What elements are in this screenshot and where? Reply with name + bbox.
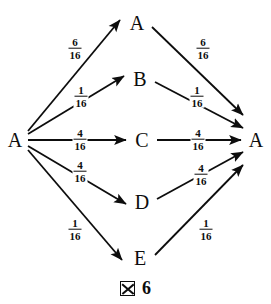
- fraction-numerator: 1: [202, 218, 210, 228]
- fraction-denominator: 16: [69, 49, 82, 59]
- fraction-denominator: 16: [191, 97, 204, 107]
- edge-label-d-to-sink: 4 16: [194, 163, 209, 186]
- fraction-numerator: 6: [71, 37, 79, 47]
- edge-label-a-to-sink: 6 16: [196, 37, 211, 60]
- fraction-denominator: 16: [197, 49, 210, 59]
- node-c-label: C: [135, 129, 148, 151]
- node-sink-a-label: A: [249, 129, 263, 151]
- edge-label-source-to-b: 1 16: [74, 85, 89, 108]
- node-b: B: [133, 69, 146, 89]
- edge-label-source-to-c: 4 16: [73, 128, 88, 151]
- figure-symbol-glyph: [120, 281, 135, 296]
- node-b-label: B: [133, 68, 146, 90]
- edge-label-source-to-e: 1 16: [68, 218, 83, 241]
- fraction-denominator: 16: [74, 140, 87, 150]
- node-source-a: A: [8, 130, 22, 150]
- figure-container: A A B C D E A 6 16 1 16 4 16 4 16 1 16: [0, 0, 271, 304]
- node-a-label: A: [130, 12, 144, 34]
- fraction-numerator: 4: [76, 128, 84, 138]
- fraction-denominator: 16: [200, 230, 213, 240]
- fraction-numerator: 6: [199, 37, 207, 47]
- fraction-denominator: 16: [69, 230, 82, 240]
- fraction-numerator: 4: [197, 163, 205, 173]
- edge-label-source-to-a: 6 16: [68, 37, 83, 60]
- fraction-numerator: 4: [76, 160, 84, 170]
- edge-label-source-to-d: 4 16: [73, 160, 88, 183]
- node-a: A: [130, 13, 144, 33]
- fraction-numerator: 1: [71, 218, 79, 228]
- node-c: C: [135, 130, 148, 150]
- fraction-denominator: 16: [74, 172, 87, 182]
- node-d: D: [135, 192, 149, 212]
- fraction-numerator: 4: [194, 128, 202, 138]
- figure-caption: 6: [0, 279, 271, 298]
- fraction-denominator: 16: [195, 175, 208, 185]
- node-sink-a: A: [249, 130, 263, 150]
- node-source-a-label: A: [8, 129, 22, 151]
- edge-label-e-to-sink: 1 16: [199, 218, 214, 241]
- node-e-label: E: [134, 247, 146, 269]
- fraction-denominator: 16: [75, 97, 88, 107]
- edge-label-c-to-sink: 4 16: [191, 128, 206, 151]
- edge-label-b-to-sink: 1 16: [190, 85, 205, 108]
- figure-number: 6: [142, 279, 151, 298]
- node-d-label: D: [135, 191, 149, 213]
- fraction-denominator: 16: [192, 140, 205, 150]
- fraction-numerator: 1: [193, 85, 201, 95]
- node-e: E: [134, 248, 146, 268]
- fraction-numerator: 1: [77, 85, 85, 95]
